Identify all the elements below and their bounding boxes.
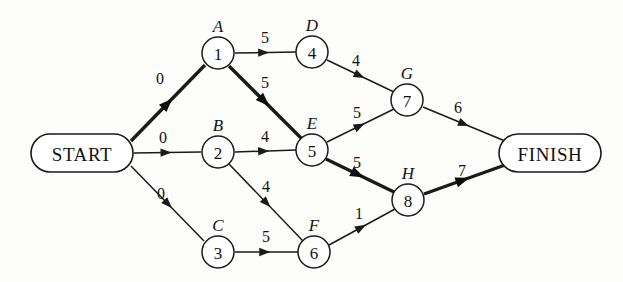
node-number-label: 2 <box>214 144 223 163</box>
node-number-label: 1 <box>214 45 223 64</box>
edge-2-to-5 <box>235 147 296 155</box>
edge-arrowhead <box>160 148 171 156</box>
terminal-finish[interactable]: FINISH <box>499 134 601 172</box>
edge-weight-label: 4 <box>261 128 269 145</box>
edge-arrowhead <box>259 248 270 256</box>
network-diagram: 12345678STARTFINISH 00055445455167ABCDEF… <box>0 0 623 282</box>
edge-weight-label: 0 <box>156 70 164 87</box>
node-1[interactable]: 1 <box>202 37 234 69</box>
edge-arrowhead <box>353 124 365 133</box>
node-8[interactable]: 8 <box>392 184 424 216</box>
network-diagram-canvas: 12345678STARTFINISH 00055445455167ABCDEF… <box>0 0 623 282</box>
edge-weight-label: 4 <box>352 52 360 69</box>
edge-weight-label: 1 <box>355 205 363 222</box>
node-number-label: 3 <box>214 244 223 263</box>
node-letter-label: A <box>212 17 224 36</box>
node-3[interactable]: 3 <box>202 236 234 268</box>
node-number-label: 4 <box>308 44 317 63</box>
edge-arrowhead <box>258 147 269 155</box>
node-letter-label: H <box>401 164 416 183</box>
terminal-start[interactable]: START <box>31 134 133 172</box>
edge-4-to-7 <box>327 60 394 92</box>
edge-arrowhead <box>354 225 366 234</box>
edge-7-to-finish <box>423 107 505 141</box>
terminal-label-finish: FINISH <box>518 144 583 165</box>
edge-weight-label: 5 <box>353 104 361 121</box>
edge-arrowhead <box>454 178 469 188</box>
node-number-label: 7 <box>403 92 412 111</box>
edge-weight-label: 5 <box>261 29 269 46</box>
edge-start-to-2 <box>134 148 201 156</box>
edge-3-to-6 <box>235 248 298 256</box>
node-number-label: 6 <box>310 244 319 263</box>
node-2[interactable]: 2 <box>202 136 234 168</box>
edge-start-to-1 <box>131 65 205 141</box>
node-letter-label: E <box>306 114 318 133</box>
terminal-label-start: START <box>52 144 113 165</box>
node-letter-label: G <box>401 64 413 83</box>
node-letter-label: C <box>212 216 224 235</box>
edge-weight-label: 0 <box>157 185 165 202</box>
node-6[interactable]: 6 <box>298 236 330 268</box>
edge-weight-label: 0 <box>159 129 167 146</box>
node-4[interactable]: 4 <box>296 36 328 68</box>
node-7[interactable]: 7 <box>391 84 423 116</box>
edge-weight-label: 5 <box>262 228 270 245</box>
edge-arrowhead <box>457 118 469 126</box>
node-letter-label: B <box>213 116 224 135</box>
node-letter-label: D <box>305 16 319 35</box>
edge-weight-label: 7 <box>458 162 466 179</box>
edge-arrowhead <box>353 69 365 78</box>
edge-arrowhead <box>258 48 269 56</box>
edge-start-to-3 <box>131 166 204 241</box>
edge-weight-label: 6 <box>454 99 462 116</box>
edge-weight-label: 5 <box>261 74 269 91</box>
node-number-label: 5 <box>308 142 317 161</box>
edge-1-to-4 <box>235 48 296 56</box>
node-letter-label: F <box>308 216 320 235</box>
node-5[interactable]: 5 <box>296 134 328 166</box>
edge-weight-label: 5 <box>353 154 361 171</box>
node-number-label: 8 <box>404 192 413 211</box>
edge-weight-label: 4 <box>262 178 270 195</box>
